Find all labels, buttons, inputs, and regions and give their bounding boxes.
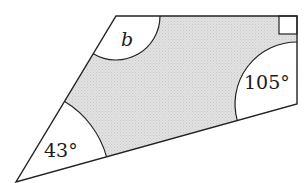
- angle-label-b: b: [121, 28, 133, 50]
- angle-label-43: 43°: [44, 139, 78, 161]
- right-angle-marker: [279, 16, 297, 34]
- angle-label-105: 105°: [244, 71, 290, 93]
- quadrilateral-diagram: b 105° 43°: [0, 0, 308, 183]
